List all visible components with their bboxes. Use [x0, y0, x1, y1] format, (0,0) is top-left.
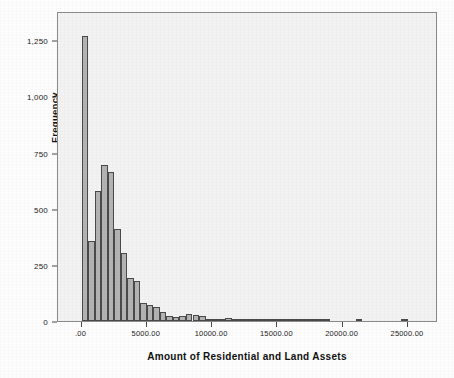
histogram-bar — [166, 316, 173, 321]
x-tick-mark — [211, 322, 212, 327]
x-tick-label: 20000.00 — [325, 329, 358, 338]
histogram-bar — [153, 307, 160, 321]
x-tick-label: 15000.00 — [260, 329, 293, 338]
histogram-bar — [212, 319, 219, 321]
bars-container — [58, 13, 436, 321]
histogram-bar — [232, 319, 239, 321]
x-tick-mark — [407, 322, 408, 327]
x-tick-label: 25000.00 — [391, 329, 424, 338]
plot-area — [57, 12, 437, 322]
histogram-bar — [356, 319, 363, 321]
x-tick-mark — [81, 322, 82, 327]
histogram-bar — [186, 314, 193, 321]
histogram-bar — [401, 319, 408, 321]
histogram-bar — [310, 319, 317, 321]
histogram-bar — [206, 319, 213, 321]
histogram-bar — [264, 319, 271, 321]
histogram-bar — [140, 303, 147, 321]
histogram-bar — [88, 241, 95, 321]
x-tick-mark — [276, 322, 277, 327]
y-tick-label: 500 — [34, 205, 48, 214]
histogram-bar — [219, 319, 226, 321]
histogram-bar — [258, 319, 265, 321]
x-axis: .005000.0010000.0015000.0020000.0025000.… — [57, 322, 437, 348]
x-axis-title: Amount of Residential and Land Assets — [57, 351, 437, 362]
histogram-bar — [82, 36, 89, 321]
x-tick-mark — [342, 322, 343, 327]
y-tick-label: 250 — [34, 261, 48, 270]
histogram-bar — [284, 319, 291, 321]
histogram-bar — [277, 319, 284, 321]
x-tick-mark — [146, 322, 147, 327]
histogram-bar — [101, 165, 108, 321]
y-tick-label: 1,250 — [27, 37, 48, 46]
histogram-bar — [179, 316, 186, 321]
histogram-bar — [303, 319, 310, 321]
histogram-bar — [127, 278, 134, 321]
histogram-figure: 02505007501,0001,250 Frequency .005000.0… — [0, 0, 454, 378]
histogram-bar — [114, 229, 121, 321]
x-tick-label: 10000.00 — [195, 329, 228, 338]
histogram-bar — [173, 317, 180, 321]
y-tick-label: 1,000 — [27, 93, 48, 102]
histogram-bar — [225, 318, 232, 321]
y-tick-label: 0 — [43, 318, 48, 327]
histogram-bar — [121, 253, 128, 322]
histogram-bar — [290, 319, 297, 321]
histogram-bar — [238, 319, 245, 321]
histogram-bar — [134, 281, 141, 321]
histogram-bar — [108, 172, 115, 321]
histogram-bar — [251, 319, 258, 321]
histogram-bar — [323, 319, 330, 321]
histogram-bar — [271, 319, 278, 321]
y-tick-label: 750 — [34, 149, 48, 158]
histogram-bar — [317, 319, 324, 321]
histogram-bar — [160, 312, 167, 321]
x-tick-label: .00 — [75, 329, 86, 338]
x-tick-label: 5000.00 — [132, 329, 161, 338]
histogram-bar — [199, 316, 206, 321]
